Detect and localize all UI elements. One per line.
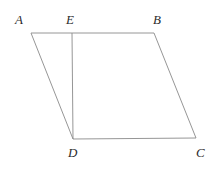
vertex-label-b: B — [153, 13, 161, 26]
geometry-diagram — [0, 0, 217, 170]
vertex-label-d: D — [68, 146, 77, 159]
vertex-label-a: A — [15, 13, 23, 26]
parallelogram-shape — [31, 33, 196, 139]
vertex-label-c: C — [196, 146, 205, 159]
geometry-figure: A E B D C — [0, 0, 217, 170]
segment-e-to-d — [72, 33, 73, 139]
vertex-label-e: E — [66, 13, 74, 26]
